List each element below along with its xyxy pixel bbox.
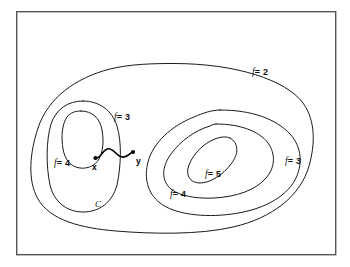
label-f-equals-3-left: f= 3 bbox=[114, 113, 130, 123]
level-set-figure: f= 2 f= 3 f= 4 f= 3 f= 5 f= 4 x y C bbox=[0, 0, 350, 267]
point-y-dot bbox=[131, 150, 135, 154]
figure-frame-border bbox=[17, 12, 336, 255]
figure-canvas bbox=[0, 0, 350, 267]
label-f-equals-4-left-value: = 4 bbox=[57, 158, 70, 168]
label-point-x: x bbox=[92, 163, 97, 172]
label-f-equals-3-right-value: = 3 bbox=[288, 156, 301, 166]
label-f-equals-4-right-value: = 4 bbox=[173, 189, 186, 199]
point-x-dot bbox=[93, 156, 97, 160]
label-f-equals-5-right: f= 5 bbox=[205, 170, 221, 180]
label-point-y: y bbox=[136, 157, 141, 166]
label-f-equals-2: f= 2 bbox=[252, 68, 268, 78]
label-f-equals-3-right: f= 3 bbox=[285, 157, 301, 167]
label-f-equals-3-left-value: = 3 bbox=[117, 112, 130, 122]
label-f-equals-2-value: = 2 bbox=[255, 67, 268, 77]
label-f-equals-4-right: f= 4 bbox=[170, 190, 186, 200]
label-f-equals-4-left: f= 4 bbox=[54, 159, 70, 169]
label-set-c: C bbox=[95, 200, 101, 209]
label-f-equals-5-right-value: = 5 bbox=[208, 169, 221, 179]
